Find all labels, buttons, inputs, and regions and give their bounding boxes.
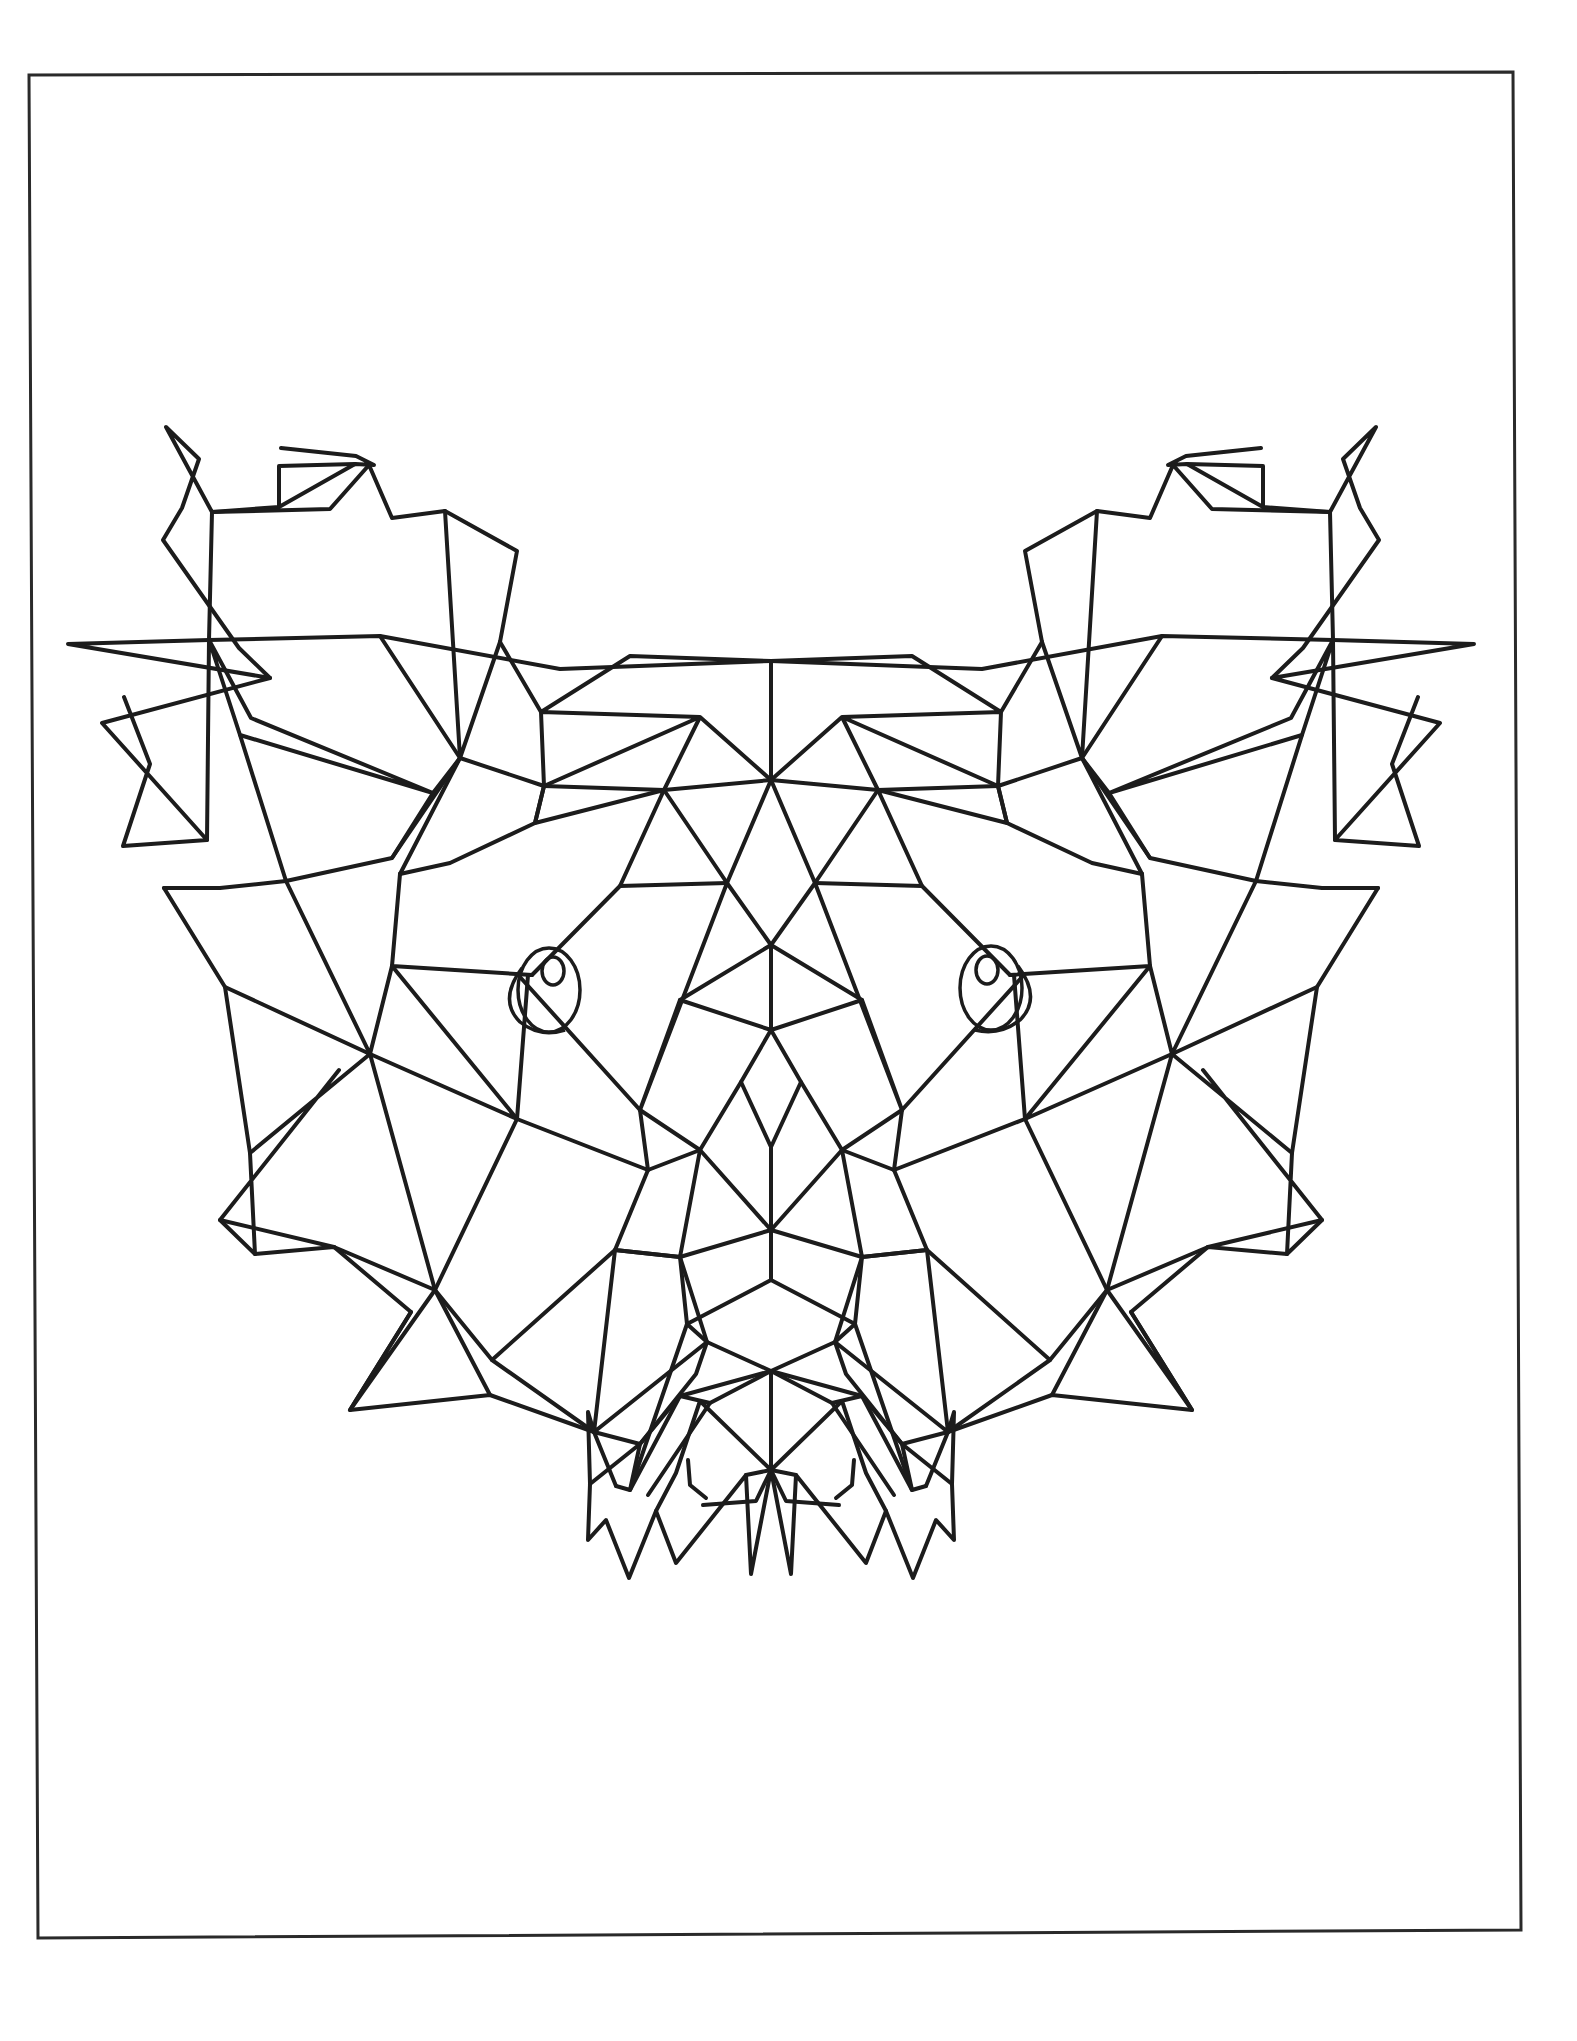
facet-edge [1330, 512, 1333, 640]
facet-edge [212, 465, 517, 642]
right-eye [960, 946, 1031, 1032]
facet-edge [771, 883, 1022, 1110]
facet-edge [435, 1290, 490, 1395]
facet-edge [492, 1250, 771, 1432]
facet-edge [370, 966, 517, 1119]
facet-edge [220, 1220, 334, 1247]
page-border-frame [29, 72, 1521, 1938]
facet-edge [500, 642, 771, 883]
facet-edge [588, 1401, 771, 1578]
facet-edge [771, 1030, 902, 1150]
facet-edge [1025, 465, 1330, 642]
facet-edge [680, 1230, 771, 1257]
facet-edge [1150, 881, 1256, 1054]
facet-edge [771, 1401, 954, 1578]
facet-edge [1042, 511, 1097, 758]
facet-edge [927, 1247, 1208, 1410]
facet-edge [771, 642, 1042, 883]
facet-edge [240, 735, 433, 881]
facet-edge [334, 1247, 615, 1410]
facet-edge [520, 883, 771, 1110]
facet-edge [544, 780, 771, 790]
facet-edge [590, 1371, 771, 1484]
facet-edge [164, 881, 286, 888]
facet-edge [1187, 464, 1263, 507]
facet-edge [1256, 881, 1378, 888]
facet-edge [1025, 966, 1172, 1119]
facet-edge [948, 1312, 1192, 1432]
facet-edge [688, 1460, 706, 1498]
facet-edge [392, 874, 620, 975]
eye-pupil [542, 957, 564, 985]
eye-pupil [976, 956, 998, 984]
facet-edge [836, 1460, 854, 1498]
facet-edge [1208, 1220, 1322, 1247]
facet-edge [286, 881, 392, 1054]
facet-edge [832, 1403, 894, 1495]
facet-edge [164, 888, 370, 1254]
facet-edge [225, 987, 250, 1153]
facet-edge [1109, 735, 1302, 881]
facet-edge [700, 1082, 771, 1230]
facet-edge [648, 1403, 710, 1495]
facet-edge [1172, 888, 1378, 1254]
facet-edge [648, 1150, 700, 1170]
facet-edge [435, 1110, 648, 1290]
facet-edge [894, 1110, 1107, 1290]
koala-coloring-page [0, 0, 1577, 2041]
facet-edge [640, 1030, 771, 1150]
left-eye [509, 948, 580, 1033]
facet-edge [922, 874, 1150, 975]
facet-edge [771, 780, 998, 790]
facet-edge [771, 1250, 1050, 1432]
facet-edge [1052, 1290, 1107, 1395]
facet-edge [279, 464, 355, 507]
koala-left-half [68, 427, 771, 1578]
facet-edge [350, 1312, 594, 1432]
facet-edge [1292, 987, 1317, 1153]
facet-edge [771, 1082, 842, 1230]
facet-edge [1082, 636, 1162, 874]
facet-edge [445, 511, 500, 758]
koala-right-half-mirrored [771, 427, 1474, 1578]
facet-edge [771, 1371, 952, 1484]
facet-edge [771, 1230, 862, 1257]
facet-edge [380, 636, 460, 874]
facet-edge [842, 1150, 894, 1170]
facet-edge [209, 512, 212, 640]
